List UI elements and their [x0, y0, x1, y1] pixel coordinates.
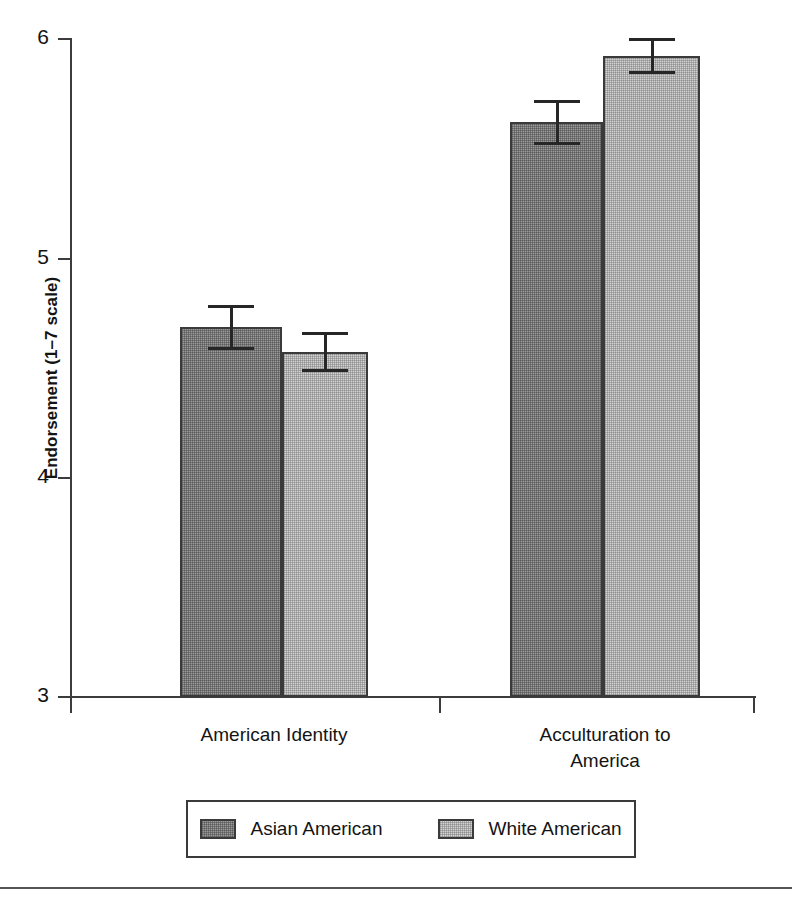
legend-swatch-asian-american [200, 819, 236, 839]
error-stem [556, 100, 559, 145]
bar-group2-white-american [603, 56, 700, 697]
error-stem [324, 332, 327, 372]
y-tick-6: 6 [58, 38, 71, 40]
y-tick-label-6: 6 [37, 25, 49, 49]
y-axis-line [70, 38, 72, 698]
y-tick-3: 3 [58, 696, 71, 698]
legend-item-white-american: White American [438, 818, 621, 840]
bar-chart-figure: Endorsement (1–7 scale) 6 5 4 3 [0, 0, 792, 906]
legend-item-asian-american: Asian American [200, 818, 382, 840]
x-axis-group-separator-tick [439, 698, 441, 713]
error-cap-bottom [302, 369, 348, 372]
y-tick-label-5: 5 [37, 245, 49, 269]
bar-group1-white-american [282, 352, 368, 697]
x-category-label-line2: America [485, 748, 725, 774]
legend-label-asian-american: Asian American [250, 818, 382, 840]
error-cap-bottom [208, 347, 254, 350]
x-axis-left-cap [70, 698, 72, 713]
chart-legend: Asian American White American [186, 800, 636, 858]
x-category-label-acculturation: Acculturation to America [485, 722, 725, 774]
error-bar-group2-asian-american [534, 100, 580, 145]
error-cap-bottom [629, 71, 675, 74]
y-tick-label-3: 3 [37, 683, 49, 707]
error-bar-group2-white-american [629, 38, 675, 74]
legend-label-white-american: White American [488, 818, 621, 840]
x-category-label-american-identity: American Identity [154, 722, 394, 748]
bar-group1-asian-american [180, 327, 282, 697]
bar-group2-asian-american [510, 122, 603, 697]
error-bar-group1-asian-american [208, 305, 254, 350]
y-tick-4: 4 [58, 477, 71, 479]
error-bar-group1-white-american [302, 332, 348, 372]
x-axis-right-cap [753, 698, 755, 713]
legend-swatch-white-american [438, 819, 474, 839]
footer-divider [0, 887, 792, 889]
x-category-label-line1: American Identity [154, 722, 394, 748]
y-tick-label-4: 4 [37, 464, 49, 488]
error-stem [230, 305, 233, 350]
error-stem [651, 38, 654, 74]
error-cap-bottom [534, 142, 580, 145]
x-category-label-line1: Acculturation to [485, 722, 725, 748]
y-tick-5: 5 [58, 258, 71, 260]
